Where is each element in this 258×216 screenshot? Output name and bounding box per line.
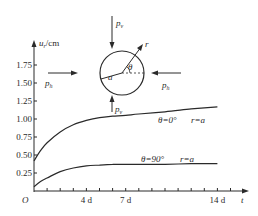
y-axis-label: ur/cm [39, 38, 59, 49]
origin-label: O [22, 195, 29, 205]
curve1-r-label: r=a [191, 115, 206, 125]
chart-canvas: 0.250.500.751.001.251.501.75 4 d7 d14 d … [0, 0, 258, 216]
theta-label: θ [128, 62, 133, 72]
x-axis-label: t [241, 195, 244, 205]
ph-right-label: ph [161, 80, 170, 91]
curve-theta-90 [34, 164, 217, 187]
y-tick-label: 1.25 [16, 96, 32, 106]
y-tick-label: 0.75 [16, 132, 32, 142]
pv-bottom-label: pv [114, 104, 123, 115]
x-tick-label: 7 d [120, 195, 132, 205]
pv-top-label: pv [115, 18, 124, 29]
curve-theta-0 [34, 107, 217, 161]
tunnel-diagram [48, 16, 181, 112]
curve2-r-label: r=a [180, 154, 195, 164]
y-tick-label: 1.50 [16, 78, 32, 88]
radius-label: a [108, 72, 113, 82]
y-tick-label: 1.75 [16, 60, 32, 70]
y-axis [32, 40, 37, 192]
curve2-theta-label: θ=90° [141, 154, 164, 164]
x-axis [34, 189, 249, 194]
ph-left-label: ph [44, 78, 53, 89]
x-tick-label: 14 d [210, 195, 226, 205]
x-tick-label: 4 d [81, 195, 93, 205]
y-tick-label: 0.50 [16, 150, 32, 160]
r-label: r [145, 39, 149, 49]
curve1-theta-label: θ=0° [158, 115, 177, 125]
y-tick-label: 0.25 [16, 168, 32, 178]
y-tick-label: 1.00 [16, 114, 32, 124]
